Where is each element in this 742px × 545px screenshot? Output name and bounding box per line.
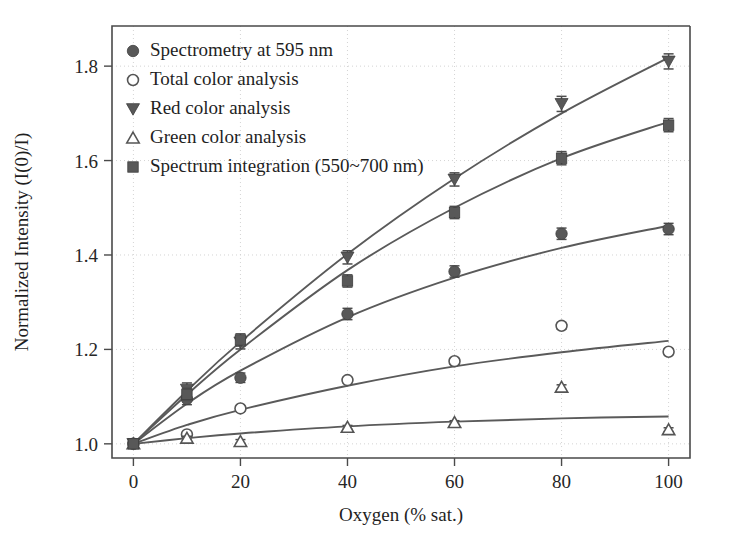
data-point xyxy=(128,439,138,449)
legend-marker-open-circle-icon xyxy=(128,75,139,86)
data-point xyxy=(342,375,353,386)
data-point xyxy=(555,99,568,111)
data-point xyxy=(556,320,567,331)
data-point xyxy=(448,174,461,186)
legend-item-1: Total color analysis xyxy=(128,68,299,89)
data-point xyxy=(449,266,460,277)
x-tick-label: 60 xyxy=(445,471,464,492)
data-point xyxy=(342,276,352,286)
series-1 xyxy=(128,320,674,449)
data-point xyxy=(449,356,460,367)
series-0 xyxy=(128,223,675,449)
legend-item-4: Spectrum integration (550~700 nm) xyxy=(128,155,424,177)
legend-marker-open-up-triangle-icon xyxy=(127,132,139,143)
y-tick-label: 1.2 xyxy=(74,339,98,360)
x-tick-label: 100 xyxy=(654,471,683,492)
data-point xyxy=(663,120,673,130)
y-tick-label: 1.0 xyxy=(74,434,98,455)
legend-label: Red color analysis xyxy=(150,97,290,118)
legend-label: Spectrometry at 595 nm xyxy=(150,39,333,60)
data-point xyxy=(235,403,246,414)
chart-svg: 0204060801001.01.21.41.61.8 Spectrometry… xyxy=(0,0,742,545)
x-tick-label: 40 xyxy=(338,471,357,492)
y-axis-title: Normalized Intensity (I(0)/I) xyxy=(11,133,33,351)
data-point xyxy=(662,424,674,435)
data-point xyxy=(235,372,246,383)
legend-item-2: Red color analysis xyxy=(126,97,290,118)
chart-figure: 0204060801001.01.21.41.61.8 Spectrometry… xyxy=(0,0,742,545)
series-3 xyxy=(127,381,675,449)
legend-label: Spectrum integration (550~700 nm) xyxy=(150,155,424,177)
fit-curve-0 xyxy=(133,226,668,444)
data-point xyxy=(449,207,459,217)
data-point xyxy=(235,335,245,345)
x-tick-label: 20 xyxy=(231,471,250,492)
x-tick-label: 0 xyxy=(129,471,139,492)
x-tick-label: 80 xyxy=(552,471,571,492)
legend-marker-filled-circle-icon xyxy=(127,45,138,56)
legend-marker-filled-down-triangle-icon xyxy=(126,104,139,116)
data-point xyxy=(556,153,566,163)
legend-marker-filled-square-icon xyxy=(128,162,138,172)
legend-item-3: Green color analysis xyxy=(127,126,306,147)
axis-tick-labels: 0204060801001.01.21.41.61.8 xyxy=(74,56,683,492)
data-point xyxy=(556,228,567,239)
x-axis-title: Oxygen (% sat.) xyxy=(339,504,463,526)
fit-curve-3 xyxy=(133,416,668,443)
y-tick-label: 1.4 xyxy=(74,245,98,266)
legend-item-0: Spectrometry at 595 nm xyxy=(127,39,333,60)
legend-label: Green color analysis xyxy=(150,126,306,147)
y-tick-label: 1.6 xyxy=(74,151,98,172)
data-point xyxy=(234,436,246,447)
fit-curve-1 xyxy=(133,341,668,444)
data-point xyxy=(182,389,192,399)
legend-label: Total color analysis xyxy=(150,68,299,89)
data-point xyxy=(663,346,674,357)
chart-legend: Spectrometry at 595 nmTotal color analys… xyxy=(126,39,423,177)
data-point xyxy=(555,381,567,392)
data-point xyxy=(342,308,353,319)
y-tick-label: 1.8 xyxy=(74,56,98,77)
data-point xyxy=(663,223,674,234)
